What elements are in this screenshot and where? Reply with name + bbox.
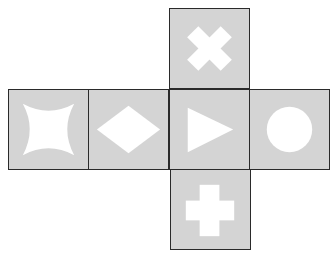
x-cross-icon bbox=[170, 9, 249, 88]
plus-icon bbox=[171, 170, 250, 249]
triangle-icon bbox=[170, 90, 249, 169]
face-left bbox=[8, 89, 89, 170]
face-center bbox=[169, 89, 250, 170]
diamond-icon bbox=[89, 90, 168, 169]
face-bottom bbox=[170, 169, 251, 250]
face-center-left bbox=[88, 89, 169, 170]
face-right bbox=[249, 89, 330, 170]
face-top bbox=[169, 8, 250, 89]
star-icon bbox=[9, 90, 88, 169]
circle-icon bbox=[250, 90, 329, 169]
